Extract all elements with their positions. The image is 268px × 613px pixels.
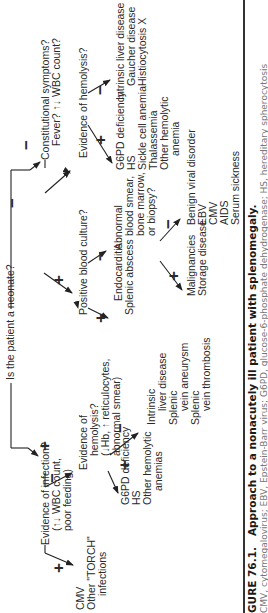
root-question: Is the patient a neonate?: [5, 264, 16, 380]
caption-rule: [243, 0, 245, 613]
infection-yes-outcomes: CMV Other "TORCH" infections: [75, 536, 108, 610]
minus-sign-hemolysis-no: −: [92, 85, 109, 95]
outcome-infections: infections: [97, 536, 108, 610]
blood-culture-question: Positive blood culture?: [78, 209, 89, 315]
neonate-hemolysis-question: Evidence of hemolysis? (↓Hb, ↑ reticuloc…: [78, 359, 122, 470]
hemolysis-question: Evidence of hemolysis?: [78, 48, 89, 158]
minus-sign-culture-no: −: [92, 251, 109, 261]
constitutional-question: Constitutional symptoms? Fever? ↑↓ WBC c…: [40, 38, 62, 160]
constitutional-line2: Fever? ↑↓ WBC count?: [51, 38, 62, 160]
minus-sign-abnormal-no: −: [160, 219, 177, 229]
plus-sign-hemolysis-yes: +: [92, 135, 109, 145]
caption-title: Approach to a nonacutely ill patient wit…: [246, 205, 258, 537]
outcome-anemia: anemia: [170, 86, 181, 170]
outcome-storage-disease: Storage disease: [197, 220, 208, 296]
infection-question: Evidence of infection? (↑↓ WBC count, po…: [40, 442, 73, 545]
neonate-hemolysis-yes-outcomes: G6PD deficiency HS Other hemolytic anemi…: [120, 427, 164, 505]
abnormal-line4: or biopsy?: [146, 172, 157, 250]
plus-sign-culture-yes: +: [92, 313, 109, 323]
hemolysis-no-outcomes: Intrinsic liver disease Gaucher disease …: [115, 3, 148, 100]
plus-sign-infection-yes: +: [50, 563, 67, 573]
outcome-serum-sickness: Serum sickness: [230, 129, 241, 225]
outcome-anemias: anemias: [153, 427, 164, 505]
abnormal-no-outcomes: Benign viral disorder EBV CMV AIDS Serum…: [186, 129, 241, 225]
plus-sign-constitutional-yes: +: [50, 275, 67, 285]
outcome-splenic-abscess: Splenic abscess: [124, 239, 135, 315]
minus-sign-neonate-no: −: [4, 198, 21, 208]
plus-sign-abnormal-yes: +: [165, 271, 182, 281]
neonate-hemolysis-no-outcomes: Intrinsic liver disease Splenic vein ane…: [146, 337, 212, 425]
flowchart-page: Is the patient a neonate? + − Evidence o…: [0, 0, 268, 613]
minus-sign-infection-no: −: [44, 473, 61, 483]
abnormal-smear-question: Abnormal blood smear, bone marrow, or bi…: [113, 172, 157, 250]
minus-sign-constitutional-no: −: [18, 140, 35, 150]
figure-caption: GURE 76.1. Approach to a nonacutely ill …: [246, 205, 258, 613]
caption-label: GURE 76.1.: [246, 547, 258, 613]
outcome-vein-thrombosis: vein thrombosis: [201, 337, 212, 425]
outcome-histiocytosis: Histiocytosis X: [137, 3, 148, 100]
caption-subtext: CMV, cytomegalovirus; EBV, Epstein-Barr …: [259, 64, 268, 613]
culture-yes-outcomes: Endocarditis Splenic abscess: [113, 239, 135, 315]
infection-question-line3: poor feeding): [62, 442, 73, 545]
abnormal-yes-outcomes: Malignancies Storage disease: [186, 220, 208, 296]
